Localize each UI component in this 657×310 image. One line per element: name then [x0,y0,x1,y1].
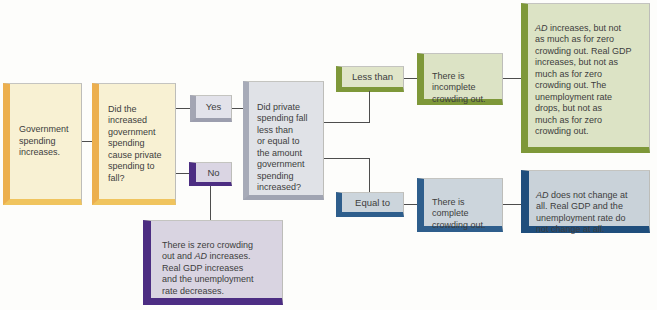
connector-no-to-outcome [210,186,211,220]
branch-label-text: Yes [206,101,222,113]
flowchart-canvas: Government spending increases. Did the i… [0,0,657,310]
node-text: There is incomplete crowding out. [432,71,500,106]
node-text: Did the increased government spending ca… [108,104,175,185]
branch-label-text: Less than [352,71,393,83]
branch-label-yes: Yes [190,95,232,122]
node-text: AD increases, but not as much as for zer… [535,23,647,138]
node-government-spending-increases: Government spending increases. [3,83,82,205]
node-text: Did private spending fall less than or e… [257,102,323,194]
connector-yes-to-q2 [232,108,243,109]
connector-q2-to-lessthan-v [369,91,370,123]
node-text: Government spending increases. [19,124,69,159]
connector-q2-to-lessthan-h [324,122,370,123]
branch-label-less-than: Less than [336,66,404,92]
connector-q1-to-no [176,173,189,174]
node-outcome-complete-crowding-out: There is complete crowding out. [417,178,503,232]
node-text: There is zero crowding out and AD increa… [162,240,278,298]
branch-label-equal-to: Equal to [336,192,404,217]
node-outcome-zero-crowding-out: There is zero crowding out and AD increa… [143,220,283,305]
node-outcome-incomplete-crowding-out: There is incomplete crowding out. [417,53,503,105]
connector-start-to-q1 [82,141,92,142]
connector-equalto-to-complete [404,204,417,205]
connector-incomplete-to-detail [503,78,521,79]
branch-label-text: Equal to [355,197,390,209]
connector-lessthan-to-incomplete [404,78,417,79]
connector-q1-to-yes [176,108,190,109]
node-text: There is complete crowding out. [432,197,500,232]
node-detail-incomplete-crowding-out: AD increases, but not as much as for zer… [521,3,650,153]
connector-complete-to-detail [503,204,521,205]
branch-label-text: No [207,167,219,179]
node-question-less-or-equal: Did private spending fall less than or e… [243,81,324,200]
node-detail-complete-crowding-out: AD does not change at all. Real GDP and … [521,170,650,233]
node-question-private-spending-fall: Did the increased government spending ca… [92,83,176,205]
connector-q2-to-equalto-h [324,158,370,159]
connector-q2-to-equalto-v [369,158,370,192]
branch-label-no: No [189,162,232,186]
node-text: AD does not change at all. Real GDP and … [536,190,647,236]
